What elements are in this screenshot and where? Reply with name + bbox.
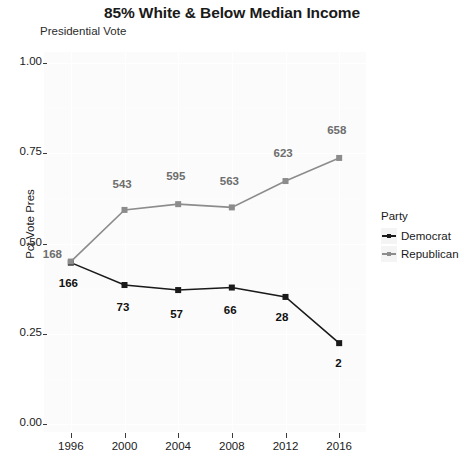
point-value-label-democrat: 73 — [117, 301, 130, 313]
data-point-democrat — [175, 287, 181, 293]
point-value-label-republican: 543 — [113, 178, 132, 190]
point-value-label-democrat: 166 — [59, 277, 78, 289]
legend-item-republican[interactable]: Republican — [381, 246, 459, 262]
legend-item-label: Democrat — [401, 230, 451, 242]
point-value-label-republican: 623 — [274, 147, 293, 159]
point-value-label-democrat: 2 — [335, 357, 341, 369]
data-point-republican — [283, 178, 289, 184]
chart-container: 85% White & Below Median Income Presiden… — [0, 0, 464, 459]
data-point-republican — [175, 201, 181, 207]
point-value-label-democrat: 66 — [224, 304, 237, 316]
legend-key-icon — [381, 246, 397, 262]
legend-key-icon — [381, 228, 397, 244]
point-value-label-republican: 563 — [220, 175, 239, 187]
data-point-democrat — [336, 340, 342, 346]
data-point-democrat — [229, 285, 235, 291]
point-value-label-republican: 168 — [43, 248, 62, 260]
legend-item-democrat[interactable]: Democrat — [381, 228, 459, 244]
point-value-label-democrat: 28 — [276, 311, 289, 323]
data-point-republican — [229, 204, 235, 210]
data-point-democrat — [283, 294, 289, 300]
series-line-republican — [71, 158, 339, 262]
legend: Party DemocratRepublican — [381, 210, 459, 264]
legend-title: Party — [381, 210, 459, 222]
series-line-democrat — [71, 263, 339, 344]
data-point-republican — [336, 155, 342, 161]
point-value-label-republican: 595 — [166, 170, 185, 182]
data-point-republican — [68, 259, 74, 265]
legend-item-label: Republican — [401, 248, 459, 260]
point-value-label-democrat: 57 — [170, 308, 183, 320]
data-point-democrat — [122, 282, 128, 288]
point-value-label-republican: 658 — [327, 124, 346, 136]
data-point-republican — [122, 207, 128, 213]
